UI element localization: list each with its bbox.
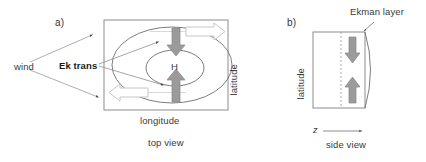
panel-b-up-arrow xyxy=(345,77,360,103)
ek-trans-pointer-lines xyxy=(99,42,163,85)
panel-a-xaxis-label: longitude xyxy=(140,116,179,126)
panel-b-caption: side view xyxy=(326,140,366,150)
panel-b-yaxis-label: latitude xyxy=(296,68,306,99)
thermocline-curve xyxy=(365,32,371,108)
panel-a-caption: top view xyxy=(148,138,184,148)
hollow-arrow-top-right xyxy=(186,23,225,40)
wind-label: wind xyxy=(14,62,34,72)
panel-a-yaxis-label: latitude xyxy=(229,64,239,95)
ekman-pumping-down-arrow xyxy=(167,28,185,56)
panel-a-tag: a) xyxy=(55,18,64,28)
high-pressure-label: H xyxy=(171,62,178,72)
panel-b-tag: b) xyxy=(287,18,296,28)
figure-ekman-pumping: a) wind Ek trans H longitude latitude to… xyxy=(0,0,426,162)
panel-b-box xyxy=(313,32,365,108)
ek-trans-label: Ek trans xyxy=(59,61,97,71)
ekman-layer-leader-line xyxy=(364,22,374,31)
panel-b-xaxis-label: z xyxy=(313,126,318,135)
panel-b-down-arrow xyxy=(345,37,360,63)
ekman-layer-label: Ekman layer xyxy=(350,7,404,17)
